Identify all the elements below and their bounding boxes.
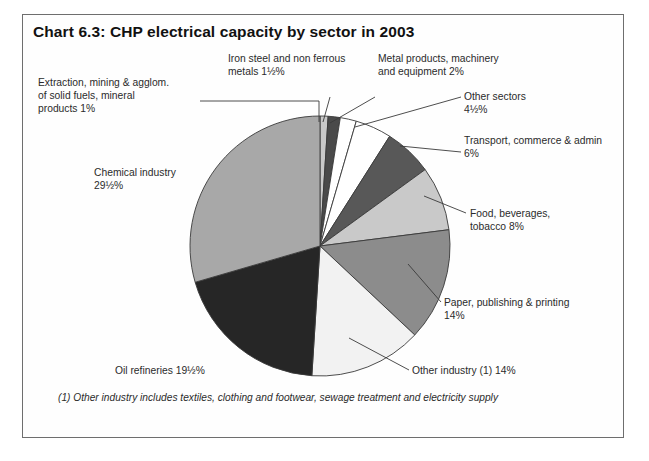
slice-label-food: Food, beverages, tobacco 8% <box>470 207 590 233</box>
slice-label-oil-refineries: Oil refineries 19½% <box>115 364 275 377</box>
slice-label-other-industry: Other industry (1) 14% <box>412 364 572 377</box>
pie-slices <box>190 116 450 376</box>
chart-footnote: (1) Other industry includes textiles, cl… <box>58 392 498 403</box>
slice-label-other-sectors: Other sectors 4½% <box>464 90 584 116</box>
slice-label-extraction: Extraction, mining & agglom. of solid fu… <box>38 76 198 116</box>
slice-label-metal-products: Metal products, machinery and equipment … <box>378 52 544 78</box>
slice-label-chemical: Chemical industry 29½% <box>94 166 224 192</box>
slice-label-transport: Transport, commerce & admin 6% <box>464 134 632 160</box>
slice-label-iron-steel: Iron steel and non ferrous metals 1½% <box>228 52 378 78</box>
leader-line-metalprod <box>330 97 375 123</box>
leader-line-othersectors <box>355 97 461 127</box>
slice-label-paper: Paper, publishing & printing 14% <box>444 296 614 322</box>
